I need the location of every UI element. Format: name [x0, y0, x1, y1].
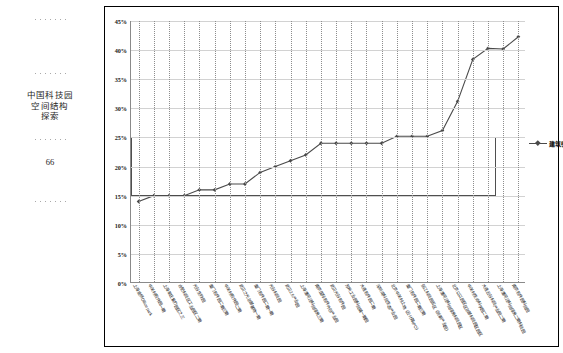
page-root: 中国科技园 空间结构 探索 66 45%40%35%30%25%20%15%10…: [0, 0, 563, 353]
y-axis-tick-label: 35%: [115, 76, 127, 83]
running-head-line-2: 空间结构: [27, 101, 74, 112]
margin-column: 中国科技园 空间结构 探索 66: [0, 0, 100, 353]
vertical-gridline: [488, 21, 489, 282]
chart-plot-wrapper: 45%40%35%30%25%20%15%10%5%0% 上海金桥Office …: [105, 7, 558, 346]
running-head-line-1: 中国科技园: [27, 90, 74, 101]
y-axis-tick-label: 45%: [115, 18, 127, 25]
y-axis: 45%40%35%30%25%20%15%10%5%0%: [105, 7, 129, 283]
vertical-gridline: [291, 21, 292, 282]
vertical-gridline: [427, 21, 428, 282]
vertical-gridline: [154, 21, 155, 282]
vertical-gridline: [321, 21, 322, 282]
y-axis-tick-label: 15%: [115, 192, 127, 199]
vertical-gridline: [458, 21, 459, 282]
vertical-gridline: [139, 21, 140, 282]
vertical-gridline: [215, 21, 216, 282]
dotted-rule-decoration: [33, 70, 67, 77]
x-axis-tick-label: 张江科技园五区（创新产业园）: [421, 283, 451, 334]
y-axis-tick-label: 5%: [118, 250, 127, 257]
x-axis-tick-label: 北京中关村上地（云计算IPO）: [390, 283, 420, 333]
vertical-gridline: [230, 21, 231, 282]
vertical-gridline: [245, 21, 246, 282]
legend-label: 建筑密度: [549, 139, 563, 148]
horizontal-gridline: [131, 21, 525, 22]
x-axis-tick-label: 光谷科技园: [269, 283, 283, 303]
y-axis-tick-label: 40%: [115, 47, 127, 54]
vertical-gridline: [184, 21, 185, 282]
y-axis-tick-label: 0%: [118, 280, 127, 287]
vertical-gridline: [412, 21, 413, 282]
x-axis-tick-label: 武汉2.5产业园: [284, 283, 300, 308]
horizontal-gridline: [131, 108, 525, 109]
x-axis-tick-label: 北京以以园区区总部科技园区园区: [451, 283, 483, 337]
vertical-gridline: [351, 21, 352, 282]
vertical-gridline: [199, 21, 200, 282]
horizontal-gridline: [131, 254, 525, 255]
vertical-gridline: [397, 21, 398, 282]
horizontal-gridline: [131, 225, 525, 226]
vertical-gridline: [473, 21, 474, 282]
running-head: 中国科技园 空间结构 探索: [27, 90, 74, 122]
vertical-gridline: [169, 21, 170, 282]
vertical-gridline: [336, 21, 337, 282]
horizontal-gridline: [131, 79, 525, 80]
horizontal-gridline: [131, 50, 525, 51]
dotted-rule-decoration: [33, 136, 67, 143]
running-head-line-3: 探索: [27, 111, 74, 122]
x-axis: 上海金桥Office park中关村软件园一期上海莘庄紫竹园区之三合肥科技区工业…: [130, 283, 525, 353]
x-axis-tick-label: 光谷生物园: [193, 283, 207, 303]
series-line: [139, 37, 519, 202]
line-diamond-marker-icon: [529, 140, 547, 147]
horizontal-gridline: [131, 196, 525, 197]
vertical-gridline: [518, 21, 519, 282]
y-axis-tick-label: 30%: [115, 105, 127, 112]
series-layer: [131, 21, 526, 283]
x-axis-tick-label: 武汉光谷软件园: [330, 283, 347, 309]
horizontal-gridline: [131, 137, 525, 138]
horizontal-gridline: [131, 167, 525, 168]
page-number: 66: [46, 157, 55, 167]
x-axis-tick-label: 大连软件园二期: [360, 283, 377, 309]
vertical-gridline: [503, 21, 504, 282]
vertical-gridline: [275, 21, 276, 282]
x-axis-tick-label: 上海漕河泾科技绿洲二期科技园: [497, 283, 527, 334]
vertical-gridline: [382, 21, 383, 282]
y-axis-tick-label: 10%: [115, 221, 127, 228]
vertical-gridline: [442, 21, 443, 282]
y-axis-tick-label: 25%: [115, 134, 127, 141]
dotted-rule-decoration: [33, 198, 67, 205]
chart-legend: 建筑密度: [529, 139, 563, 148]
plot-area: [130, 21, 525, 283]
vertical-gridline: [366, 21, 367, 282]
y-axis-tick-label: 20%: [115, 163, 127, 170]
vertical-gridline: [306, 21, 307, 282]
dotted-rule-decoration: [33, 16, 67, 23]
chart-frame: 45%40%35%30%25%20%15%10%5%0% 上海金桥Office …: [104, 6, 559, 347]
vertical-gridline: [260, 21, 261, 282]
